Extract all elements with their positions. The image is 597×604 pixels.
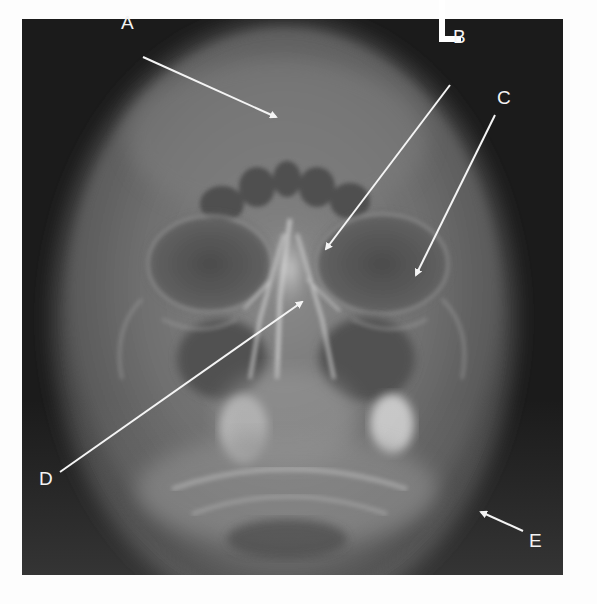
label-b: B xyxy=(453,27,466,46)
skull-radiograph-image xyxy=(22,19,563,575)
label-e: E xyxy=(529,531,542,550)
label-a: A xyxy=(121,13,134,32)
label-d: D xyxy=(39,469,53,488)
xray-figure: A B C D E xyxy=(0,0,597,604)
skull-radiograph xyxy=(22,19,563,575)
label-c: C xyxy=(497,88,511,107)
